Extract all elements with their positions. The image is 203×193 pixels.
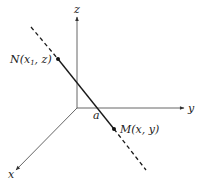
point-M <box>112 127 116 131</box>
x-axis <box>16 108 77 170</box>
diagram-canvas: z y x a N(x1, z) M(x, y) <box>0 0 203 193</box>
x-axis-label: x <box>8 168 15 181</box>
z-axis-label: z <box>73 3 80 16</box>
point-N-coords-suffix: , z) <box>35 53 52 66</box>
point-M-label: M(x, y) <box>119 123 159 136</box>
point-N <box>56 57 60 61</box>
point-N-name: N <box>9 53 20 66</box>
y-axis-label: y <box>187 102 195 115</box>
point-M-coords: (x, y) <box>131 123 159 136</box>
point-N-label: N(x1, z) <box>9 53 52 67</box>
intercept-label-a: a <box>93 109 100 122</box>
axes-diagram: z y x a N(x1, z) M(x, y) <box>0 0 203 193</box>
point-M-name: M <box>119 123 132 136</box>
